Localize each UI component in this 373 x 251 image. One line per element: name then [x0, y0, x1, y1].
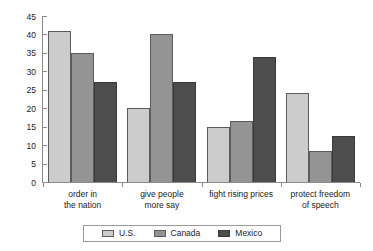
- x-axis-tick-mark: [122, 183, 123, 187]
- legend-swatch-icon: [218, 230, 230, 237]
- bar: [173, 82, 196, 182]
- bar-groups: [43, 16, 360, 182]
- legend-item[interactable]: Mexico: [218, 229, 262, 238]
- bar: [309, 151, 332, 182]
- legend-swatch-icon: [102, 230, 114, 237]
- x-axis-tick-mark: [281, 183, 282, 187]
- bar: [332, 136, 355, 182]
- bar: [286, 93, 309, 182]
- legend-item[interactable]: U.S.: [102, 229, 136, 238]
- legend-item[interactable]: Canada: [154, 229, 201, 238]
- bar: [94, 82, 117, 182]
- bar-group: [202, 16, 281, 182]
- category-labels: order inthe nationgive peoplemore sayfig…: [43, 189, 360, 211]
- bar-chart: 051015202530354045 order inthe nationgiv…: [0, 0, 373, 251]
- category-label: order inthe nation: [43, 189, 122, 211]
- bar: [150, 34, 173, 182]
- bar-group: [43, 16, 122, 182]
- bar: [127, 108, 150, 182]
- category-label-line: give people: [122, 189, 201, 200]
- bar-group: [122, 16, 201, 182]
- category-label-line: order in: [43, 189, 122, 200]
- legend-label: Mexico: [235, 229, 262, 238]
- category-label: fight rising prices: [202, 189, 281, 211]
- category-label-line: of speech: [281, 200, 360, 211]
- category-label-line: protect freedom: [281, 189, 360, 200]
- legend-label: U.S.: [119, 229, 136, 238]
- category-label-line: more say: [122, 200, 201, 211]
- x-axis-tick-mark: [360, 183, 361, 187]
- legend-swatch-icon: [154, 230, 166, 237]
- bar: [71, 53, 94, 182]
- category-label-line: the nation: [43, 200, 122, 211]
- bar: [230, 121, 253, 182]
- x-axis-tick-mark: [202, 183, 203, 187]
- bar: [48, 31, 71, 182]
- chart-legend: U.S.CanadaMexico: [83, 225, 281, 242]
- bar-group: [281, 16, 360, 182]
- legend-label: Canada: [171, 229, 201, 238]
- category-label: give peoplemore say: [122, 189, 201, 211]
- bar: [253, 57, 276, 182]
- category-label: protect freedomof speech: [281, 189, 360, 211]
- x-axis-tick-mark: [43, 183, 44, 187]
- category-label-line: fight rising prices: [202, 189, 281, 200]
- bar: [207, 127, 230, 182]
